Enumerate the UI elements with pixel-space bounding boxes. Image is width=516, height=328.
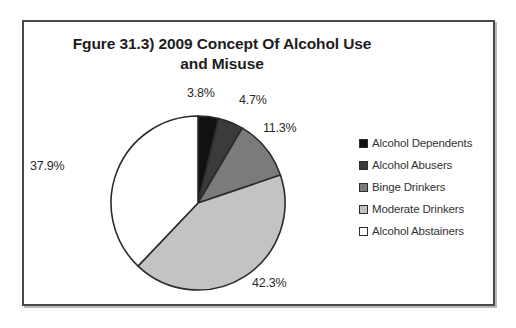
legend-item-moderate-drinkers[interactable]: Moderate Drinkers [359, 198, 491, 220]
legend-item-alcohol-dependents[interactable]: Alcohol Dependents [359, 132, 491, 154]
legend-swatch-icon [359, 183, 368, 192]
legend-swatch-icon [359, 161, 368, 170]
chart-legend: Alcohol Dependents Alcohol Abusers Binge… [359, 132, 491, 242]
legend-label: Binge Drinkers [372, 181, 445, 193]
pie-label-moderate-drinkers: 42.3% [252, 276, 286, 290]
legend-item-alcohol-abstainers[interactable]: Alcohol Abstainers [359, 220, 491, 242]
pie-label-alcohol-abusers: 4.7% [239, 93, 267, 107]
pie-label-binge-drinkers: 11.3% [263, 121, 297, 135]
legend-label: Moderate Drinkers [372, 203, 464, 215]
legend-swatch-icon [359, 227, 368, 236]
legend-item-alcohol-abusers[interactable]: Alcohol Abusers [359, 154, 491, 176]
legend-label: Alcohol Dependents [372, 137, 472, 149]
pie-label-alcohol-abstainers: 37.9% [30, 159, 64, 173]
pie-label-alcohol-dependents: 3.8% [187, 86, 215, 100]
legend-label: Alcohol Abusers [372, 159, 452, 171]
legend-swatch-icon [359, 205, 368, 214]
legend-swatch-icon [359, 139, 368, 148]
legend-label: Alcohol Abstainers [372, 225, 464, 237]
pie-slices [111, 116, 285, 290]
figure-frame: Fgure 31.3) 2009 Concept Of Alcohol Use … [22, 20, 495, 306]
legend-item-binge-drinkers[interactable]: Binge Drinkers [359, 176, 491, 198]
